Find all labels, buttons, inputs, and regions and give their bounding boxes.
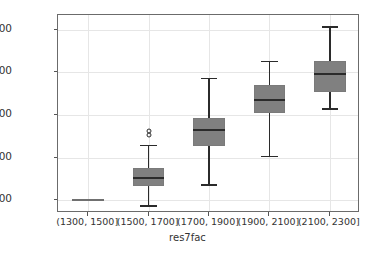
y-axis-tick-mark xyxy=(54,157,58,158)
whisker-upper xyxy=(329,26,331,60)
y-axis-tick-mark xyxy=(54,71,58,72)
x-axis-tick-mark xyxy=(268,212,269,216)
whisker-lower xyxy=(329,92,331,108)
y-axis-tick-label: 2200 xyxy=(0,65,12,76)
box-iqr-rect[interactable] xyxy=(314,61,345,93)
y-axis-tick-label: 2000 xyxy=(0,108,12,119)
y-axis-tick-mark xyxy=(54,29,58,30)
y-axis-tick-label: 1800 xyxy=(0,151,12,162)
cap-upper xyxy=(322,26,338,28)
median-line xyxy=(314,73,345,75)
x-axis-tick-label: (2100, 2300] xyxy=(298,216,360,228)
y-axis-tick-mark xyxy=(54,199,58,200)
x-axis-tick-mark xyxy=(87,212,88,216)
x-axis-tick-label: (1900, 2100] xyxy=(237,216,299,228)
y-axis-tick-mark xyxy=(54,114,58,115)
x-axis-tick-mark xyxy=(208,212,209,216)
y-axis-tick-label: 1600 xyxy=(0,193,12,204)
x-axis-tick-mark xyxy=(148,212,149,216)
boxplot-figure: res7fac 16001800200022002400(1300, 1500]… xyxy=(0,0,375,256)
x-axis-tick-label: (1300, 1500] xyxy=(56,216,118,228)
x-axis-tick-label: (1700, 1900] xyxy=(177,216,239,228)
box-plot-group[interactable] xyxy=(58,15,360,211)
x-axis-title: res7fac xyxy=(0,232,375,243)
plot-area xyxy=(57,14,359,212)
x-axis-tick-label: (1500, 1700] xyxy=(117,216,179,228)
cap-lower xyxy=(322,108,338,110)
y-axis-tick-label: 2400 xyxy=(0,23,12,34)
x-axis-tick-mark xyxy=(329,212,330,216)
